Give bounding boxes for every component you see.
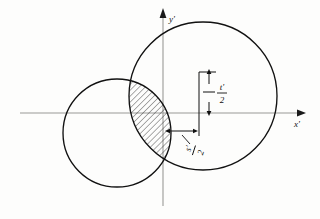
s-half-label-group: s' 2 [182,142,207,159]
geometry-diagram: t' 2 s' 2 x' y' [0,0,320,219]
y-axis-label: y' [168,14,176,24]
s-dim-arrowhead-right [193,129,198,134]
intersection-lens-hatch [0,0,320,219]
lens-clip-outer [0,0,320,219]
x-axis-arrowhead [297,110,306,117]
s-half-leader-line [182,135,190,144]
lens-clip-inner [0,0,320,219]
t-half-denominator: 2 [220,95,225,105]
figure-canvas: t' 2 s' 2 x' y' [0,0,320,219]
s-half-denominator: 2 [195,148,206,156]
x-axis-label: x' [293,119,301,129]
t-half-dimension-group: t' 2 [199,69,227,116]
t-half-numerator: t' [220,82,226,92]
s-half-numerator: s' [183,143,195,152]
y-axis-arrowhead [160,8,167,18]
